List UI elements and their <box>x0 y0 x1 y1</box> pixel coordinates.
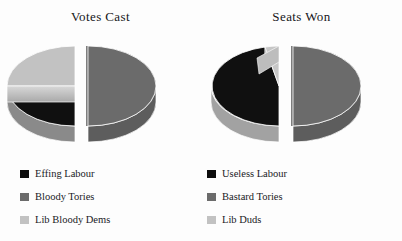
legend-swatch-icon <box>20 193 29 201</box>
legend-swatch-icon <box>207 216 216 224</box>
legend-swatch-icon <box>20 216 29 224</box>
legend-label: Bastard Tories <box>222 191 283 202</box>
legend-item[interactable]: Lib Duds <box>207 208 392 231</box>
page-title-secondary: Seats Won <box>201 9 402 25</box>
legend-item[interactable]: Useless Labour <box>207 162 392 185</box>
slice-lib-bloody-dems-top <box>7 46 75 86</box>
chart-panel-seats-won: Seats Won <box>201 0 402 241</box>
legend-label: Effing Labour <box>35 168 95 179</box>
legend-votes-cast: Effing Labour Bloody Tories Lib Bloody D… <box>20 162 205 231</box>
pie-chart-votes-cast <box>0 28 201 156</box>
legend-label: Bloody Tories <box>35 191 94 202</box>
pie-chart-seats-won <box>201 28 402 156</box>
legend-label: Useless Labour <box>222 168 287 179</box>
legend-item[interactable]: Effing Labour <box>20 162 205 185</box>
legend-swatch-icon <box>207 193 216 201</box>
legend-swatch-icon <box>207 170 216 178</box>
legend-swatch-icon <box>20 170 29 178</box>
chart-panel-votes-cast: Votes Cast <box>0 0 201 241</box>
slice-bloody-tories <box>86 46 156 142</box>
page-title: Votes Cast <box>0 9 201 25</box>
legend-item[interactable]: Bastard Tories <box>207 185 392 208</box>
legend-seats-won: Useless Labour Bastard Tories Lib Duds <box>207 162 392 231</box>
legend-label: Lib Bloody Dems <box>35 214 110 225</box>
dual-pie-chart-figure: Votes Cast <box>0 0 402 241</box>
legend-item[interactable]: Bloody Tories <box>20 185 205 208</box>
slice-bastard-tories <box>291 46 361 142</box>
legend-label: Lib Duds <box>222 214 261 225</box>
slice-lib-bloody-dems-side <box>7 86 75 102</box>
legend-item[interactable]: Lib Bloody Dems <box>20 208 205 231</box>
